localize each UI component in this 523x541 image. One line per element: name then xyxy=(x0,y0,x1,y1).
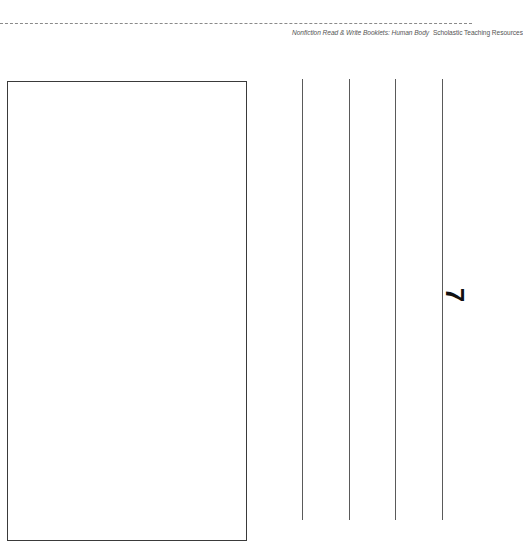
credit-title: Nonfiction Read & Write Booklets: Human … xyxy=(292,29,429,36)
writing-line-1 xyxy=(302,79,303,520)
credit-publisher: Scholastic Teaching Resources xyxy=(433,29,523,36)
page-number: 7 xyxy=(442,288,468,302)
writing-line-3 xyxy=(395,79,396,520)
drawing-box xyxy=(7,81,247,541)
writing-line-2 xyxy=(349,79,350,520)
dashed-cut-line xyxy=(0,23,472,24)
page-credit: Nonfiction Read & Write Booklets: Human … xyxy=(292,29,523,36)
